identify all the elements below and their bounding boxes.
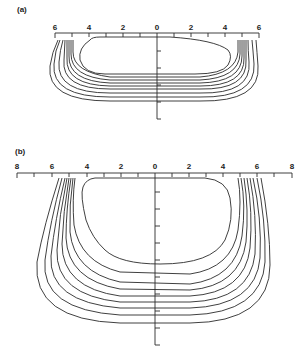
svg-text:8: 8	[290, 162, 295, 171]
svg-text:2: 2	[187, 162, 192, 171]
svg-text:4: 4	[87, 23, 92, 32]
panel-a-x-tick-labels: 6 4 2 0 2 4 6	[53, 23, 262, 32]
svg-text:6: 6	[255, 162, 260, 171]
panel-a-inner-contour	[80, 37, 231, 74]
panel-a	[50, 33, 259, 119]
svg-text:6: 6	[53, 23, 58, 32]
svg-text:2: 2	[119, 162, 124, 171]
svg-text:4: 4	[223, 23, 228, 32]
svg-text:0: 0	[153, 162, 158, 171]
contour-diagram: 6 4 2 0 2 4 6 8 6 4 2 0 2 4 6 8	[0, 0, 304, 361]
panel-a-y-ticks	[157, 51, 161, 119]
panel-b-inner-contour	[82, 178, 231, 264]
panel-b	[17, 173, 292, 345]
svg-text:0: 0	[155, 23, 160, 32]
svg-text:4: 4	[85, 162, 90, 171]
svg-text:6: 6	[50, 162, 55, 171]
svg-text:2: 2	[189, 23, 194, 32]
panel-b-x-ticks	[17, 173, 292, 178]
svg-text:4: 4	[221, 162, 226, 171]
svg-text:8: 8	[15, 162, 20, 171]
panel-b-y-ticks	[155, 192, 160, 345]
panel-b-x-tick-labels: 8 6 4 2 0 2 4 6 8	[15, 162, 295, 171]
svg-text:2: 2	[121, 23, 126, 32]
svg-text:6: 6	[257, 23, 262, 32]
